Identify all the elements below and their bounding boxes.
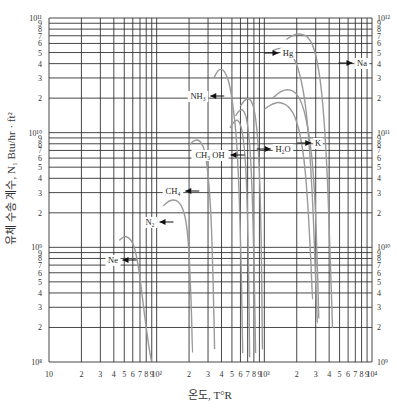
y-right-tick-label: 5 xyxy=(377,49,381,58)
y-right-tick-label: 2 xyxy=(377,323,381,332)
y-left-tick-label: 6 xyxy=(38,269,42,278)
x-axis-label: 온도, T°R xyxy=(188,386,232,402)
x-tick-label: 10³ xyxy=(259,370,270,379)
y-left-tick-label: 3 xyxy=(38,189,42,198)
y-right-tick-label: 10¹⁰ xyxy=(377,243,390,252)
annotation-ho: H₂O xyxy=(257,144,294,155)
x-tick-label: 4 xyxy=(112,370,116,379)
y-left-tick-label: 10¹¹ xyxy=(29,14,42,23)
x-tick-label: 5 xyxy=(338,370,342,379)
y-left-tick-label: 5 xyxy=(38,49,42,58)
svg-text:N₂: N₂ xyxy=(145,217,154,227)
transport-coefficient-chart: 102345678910²2345678910³2345678910⁴ 10⁸2… xyxy=(0,0,397,410)
y-right-tick-label: 3 xyxy=(377,189,381,198)
y-left-tick-label: 10⁹ xyxy=(31,243,42,252)
y-right-tick-label: 6 xyxy=(377,39,381,48)
y-left-tick-label: 3 xyxy=(38,303,42,312)
annotation-n: N₂ xyxy=(143,217,174,228)
x-tick-label: 10² xyxy=(151,370,162,379)
x-tick-label: 7 xyxy=(353,370,357,379)
x-tick-label: 8 xyxy=(360,370,364,379)
x-tick-label: 8 xyxy=(144,370,148,379)
x-tick-label: 4 xyxy=(219,370,223,379)
y-right-tick-label: 6 xyxy=(377,154,381,163)
y-right-tick-label: 4 xyxy=(377,289,381,298)
y-left-tick-label: 2 xyxy=(38,323,42,332)
curve-hg-low xyxy=(264,103,312,300)
svg-text:Hg: Hg xyxy=(283,48,294,58)
y-left-tick-label: 2 xyxy=(38,209,42,218)
svg-text:NH₃: NH₃ xyxy=(190,91,205,101)
y-right-tick-label: 2 xyxy=(377,209,381,218)
x-tick-label: 2 xyxy=(187,370,191,379)
y-left-tick-label: 3 xyxy=(38,74,42,83)
x-tick-label: 6 xyxy=(346,370,350,379)
x-tick-label: 2 xyxy=(295,370,299,379)
y-right-tick-label: 3 xyxy=(377,303,381,312)
x-tick-label: 7 xyxy=(138,370,142,379)
y-right-tick-label: 4 xyxy=(377,60,381,69)
y-left-tick-label: 6 xyxy=(38,39,42,48)
x-tick-label: 10⁴ xyxy=(367,370,378,379)
y-left-tick-label: 10¹⁰ xyxy=(29,129,42,138)
curve-n2 xyxy=(163,200,192,353)
y-right-tick-label: 5 xyxy=(377,163,381,172)
y-left-tick-label: 4 xyxy=(38,60,42,69)
annotation-hg: Hg xyxy=(265,48,296,59)
y-right-tick-label: 5 xyxy=(377,278,381,287)
x-tick-label: 5 xyxy=(230,370,234,379)
y-right-tick-label: 10¹² xyxy=(377,14,390,23)
y-axis-right-ticks: 10⁹2345678910¹⁰2345678910¹¹2345678910¹² xyxy=(377,14,390,367)
y-right-tick-label: 10⁹ xyxy=(377,358,388,367)
grid-lines xyxy=(49,18,372,362)
svg-text:K: K xyxy=(315,138,322,148)
svg-text:Ne: Ne xyxy=(108,255,118,265)
y-left-tick-label: 2 xyxy=(38,94,42,103)
y-left-tick-label: 4 xyxy=(38,174,42,183)
x-tick-label: 3 xyxy=(206,370,210,379)
svg-text:Na: Na xyxy=(357,58,367,68)
x-axis-ticks: 102345678910²2345678910³2345678910⁴ xyxy=(45,370,378,379)
x-tick-label: 7 xyxy=(246,370,250,379)
x-tick-label: 10 xyxy=(45,370,53,379)
x-tick-label: 4 xyxy=(327,370,331,379)
x-tick-label: 2 xyxy=(79,370,83,379)
svg-text:CH₄: CH₄ xyxy=(166,186,181,196)
y-right-tick-label: 2 xyxy=(377,94,381,103)
x-tick-label: 8 xyxy=(252,370,256,379)
y-right-tick-label: 6 xyxy=(377,269,381,278)
y-axis-label: 유체 수송 계수, N₁ Btu/hr · ft² xyxy=(2,112,18,245)
curve-h2o xyxy=(236,110,256,353)
curve-ch4 xyxy=(189,140,215,349)
y-right-tick-label: 10¹¹ xyxy=(377,129,390,138)
y-right-tick-label: 3 xyxy=(377,74,381,83)
x-tick-label: 3 xyxy=(98,370,102,379)
y-left-tick-label: 5 xyxy=(38,163,42,172)
svg-text:H₂O: H₂O xyxy=(275,144,290,154)
y-right-tick-label: 4 xyxy=(377,174,381,183)
annotation-ne: Ne xyxy=(106,255,137,266)
x-tick-label: 6 xyxy=(238,370,242,379)
annotation-nh: NH₃ xyxy=(188,91,225,102)
svg-text:CH₃ OH: CH₃ OH xyxy=(195,150,224,160)
annotation-ch: CH₄ xyxy=(163,186,200,197)
x-tick-label: 5 xyxy=(122,370,126,379)
x-tick-label: 3 xyxy=(314,370,318,379)
y-left-tick-label: 10⁸ xyxy=(31,358,42,367)
y-left-tick-label: 5 xyxy=(38,278,42,287)
y-left-tick-label: 4 xyxy=(38,289,42,298)
x-tick-label: 6 xyxy=(131,370,135,379)
series-curves xyxy=(119,34,332,362)
y-left-tick-label: 6 xyxy=(38,154,42,163)
y-axis-left-ticks: 10⁸2345678910⁹2345678910¹⁰2345678910¹¹ xyxy=(29,14,43,367)
